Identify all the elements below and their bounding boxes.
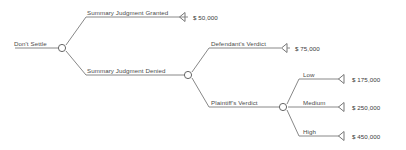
branch-label-summary-judgment-granted: Summary Judgment Granted [87,9,168,16]
chance-node-settlement[interactable] [58,44,65,51]
payoff-medium: $ 250,000 [352,104,380,111]
chance-node-verdict[interactable] [184,71,191,78]
decision-tree-diagram: Don't Settle Summary Judgment Granted Su… [0,0,406,150]
edge-defendants-verdict [192,48,281,72]
terminal-marker-high [339,132,345,141]
branch-label-low: Low [303,71,315,78]
branch-label-defendants-verdict: Defendant's Verdict [211,40,266,47]
payoff-high: $ 450,000 [352,133,380,140]
branch-label-summary-judgment-denied: Summary Judgment Denied [87,67,166,74]
tree-graphics [0,0,406,150]
payoff-low: $ 175,000 [352,76,380,83]
terminal-marker-low [339,75,345,84]
terminal-marker-medium [339,103,345,112]
branch-label-high: High [303,128,316,135]
payoff-defendant: $ 75,000 [295,45,320,52]
chance-node-damages[interactable] [279,103,286,110]
branch-label-medium: Medium [303,99,326,106]
branch-label-dont-settle: Don't Settle [14,40,47,47]
payoff-granted: $ 50,000 [193,14,218,21]
terminal-marker-defendant [282,44,288,53]
edge-summary-judgment-granted [66,17,185,45]
branch-label-plaintiffs-verdict: Plaintiff's Verdict [211,99,258,106]
